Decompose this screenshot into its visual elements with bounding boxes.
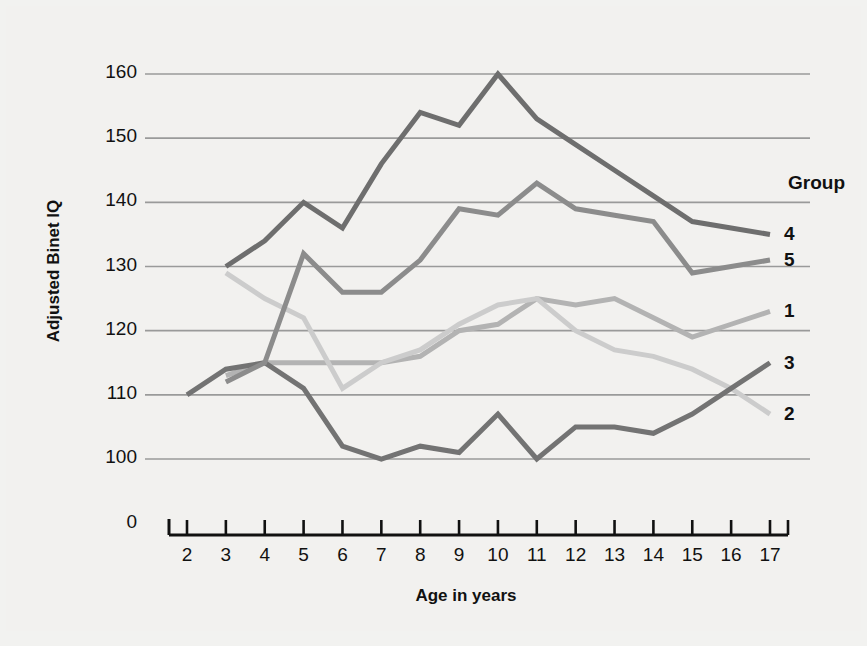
x-axis-tick-label: 13 [600, 544, 630, 566]
y-axis-tick-label: 120 [77, 318, 137, 340]
legend-label-group-4[interactable]: 4 [784, 223, 795, 245]
x-axis-tick-label: 5 [289, 544, 319, 566]
series-line-5 [226, 183, 770, 382]
legend-label-group-1[interactable]: 1 [784, 300, 795, 322]
x-axis-tick-label: 11 [522, 544, 552, 566]
x-axis-tick-label: 10 [483, 544, 513, 566]
y-axis-tick-label: 150 [77, 125, 137, 147]
series-line-1 [226, 299, 770, 376]
legend-title: Group [788, 172, 845, 194]
x-axis-tick-label: 6 [327, 544, 357, 566]
y-axis-tick-label: 130 [77, 254, 137, 276]
x-axis-tick-label: 4 [250, 544, 280, 566]
y-axis-zero-label: 0 [77, 511, 137, 533]
series-line-4 [226, 74, 770, 267]
y-axis-tick-label: 140 [77, 189, 137, 211]
legend-label-group-5[interactable]: 5 [784, 249, 795, 271]
x-axis-tick-label: 2 [172, 544, 202, 566]
x-axis-tick-label: 17 [755, 544, 785, 566]
x-axis-title: Age in years [316, 586, 616, 606]
x-axis-tick-label: 12 [561, 544, 591, 566]
figure-container: Adjusted Binet IQ Age in years 160150140… [0, 0, 867, 646]
legend-label-group-2[interactable]: 2 [784, 403, 795, 425]
x-axis-tick-label: 16 [716, 544, 746, 566]
x-axis-tick-label: 14 [638, 544, 668, 566]
y-axis-tick-label: 110 [77, 382, 137, 404]
y-axis-tick-label: 160 [77, 61, 137, 83]
x-axis-tick-label: 3 [211, 544, 241, 566]
x-axis-tick-label: 9 [444, 544, 474, 566]
x-axis-tick-label: 8 [405, 544, 435, 566]
chart-paper: Adjusted Binet IQ Age in years 160150140… [6, 6, 861, 631]
x-axis-tick-label: 15 [677, 544, 707, 566]
series-line-3 [187, 363, 770, 459]
x-axis-tick-label: 7 [366, 544, 396, 566]
legend-label-group-3[interactable]: 3 [784, 352, 795, 374]
y-axis-title: Adjusted Binet IQ [44, 171, 64, 371]
y-axis-tick-label: 100 [77, 446, 137, 468]
